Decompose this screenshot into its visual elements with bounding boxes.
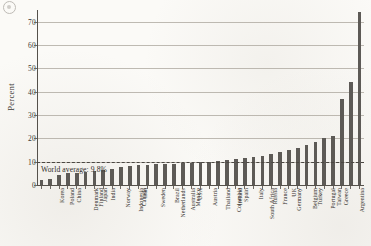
gridline bbox=[37, 45, 364, 46]
bar bbox=[216, 161, 220, 185]
x-tick-mark bbox=[315, 186, 316, 189]
x-tick-label: Iran bbox=[142, 188, 148, 198]
bar bbox=[234, 159, 238, 185]
x-tick-mark bbox=[209, 186, 210, 189]
bar bbox=[75, 173, 79, 185]
x-tick-mark bbox=[191, 186, 192, 189]
x-tick-label: France bbox=[281, 188, 287, 205]
y-tick-label: 20 bbox=[14, 134, 36, 143]
x-tick-mark bbox=[120, 186, 121, 189]
bar bbox=[331, 136, 335, 185]
bar bbox=[358, 12, 362, 185]
x-tick-mark bbox=[200, 186, 201, 189]
x-tick-label: Portugal bbox=[330, 188, 336, 209]
x-tick-mark bbox=[112, 186, 113, 189]
x-tick-mark bbox=[147, 186, 148, 189]
x-tick-mark bbox=[173, 186, 174, 189]
bar bbox=[137, 165, 141, 185]
x-tick-mark bbox=[288, 186, 289, 189]
x-tick-label: Sweden bbox=[160, 188, 166, 207]
x-tick-mark bbox=[306, 186, 307, 189]
bar bbox=[163, 164, 167, 185]
bar bbox=[207, 162, 211, 185]
bar bbox=[269, 154, 273, 185]
x-tick-label: Japan bbox=[102, 188, 108, 202]
bar bbox=[119, 167, 123, 185]
y-tick-label: 70 bbox=[14, 17, 36, 26]
bar bbox=[287, 150, 291, 185]
bar bbox=[110, 169, 114, 185]
x-tick-mark bbox=[76, 186, 77, 189]
x-tick-mark bbox=[324, 186, 325, 189]
x-tick-label: Netherlands bbox=[179, 188, 185, 218]
y-tick-label: 30 bbox=[14, 111, 36, 120]
x-tick-mark bbox=[359, 186, 360, 189]
y-axis-line bbox=[37, 10, 38, 186]
x-tick-mark bbox=[235, 186, 236, 189]
y-tick-label: 10 bbox=[14, 157, 36, 166]
bar bbox=[128, 166, 132, 185]
x-tick-mark bbox=[271, 186, 272, 189]
x-tick-label: Korea bbox=[59, 188, 65, 203]
x-tick-mark bbox=[227, 186, 228, 189]
x-tick-label: UK bbox=[291, 188, 297, 197]
gridline bbox=[37, 115, 364, 116]
bar bbox=[190, 163, 194, 185]
bar bbox=[48, 179, 52, 185]
x-tick-mark bbox=[129, 186, 130, 189]
x-tick-label: Austria bbox=[212, 188, 218, 206]
bar bbox=[146, 165, 150, 185]
bar bbox=[296, 148, 300, 185]
x-tick-label: Italy bbox=[258, 188, 264, 199]
bar bbox=[261, 156, 265, 185]
bar bbox=[225, 160, 229, 185]
bar bbox=[199, 162, 203, 185]
bar bbox=[181, 163, 185, 185]
x-tick-mark bbox=[94, 186, 95, 189]
y-axis-ticks: 010203040506070 bbox=[14, 0, 36, 246]
y-tick-label: 60 bbox=[14, 41, 36, 50]
x-tick-label: Brazil bbox=[174, 188, 180, 203]
bar-chart: Percent 010203040506070 World average: 9… bbox=[0, 0, 371, 246]
x-tick-mark bbox=[262, 186, 263, 189]
bar bbox=[314, 142, 318, 185]
x-tick-mark bbox=[280, 186, 281, 189]
x-tick-label: Norway bbox=[125, 188, 131, 208]
bar bbox=[305, 145, 309, 185]
gridline bbox=[37, 138, 364, 139]
x-tick-mark bbox=[218, 186, 219, 189]
bar bbox=[278, 152, 282, 185]
x-tick-label: Russia bbox=[272, 188, 278, 204]
y-tick-label: 50 bbox=[14, 64, 36, 73]
bar bbox=[84, 172, 88, 185]
x-tick-label: Poland bbox=[69, 188, 75, 205]
x-tick-label: Spain bbox=[243, 188, 249, 202]
x-tick-mark bbox=[297, 186, 298, 189]
x-tick-mark bbox=[182, 186, 183, 189]
x-tick-label: USA bbox=[197, 188, 203, 200]
x-tick-mark bbox=[244, 186, 245, 189]
x-tick-mark bbox=[59, 186, 60, 189]
x-tick-label: India bbox=[109, 188, 115, 201]
bar bbox=[40, 180, 44, 185]
bar bbox=[154, 164, 158, 185]
x-tick-mark bbox=[41, 186, 42, 189]
x-tick-mark bbox=[156, 186, 157, 189]
x-tick-mark bbox=[333, 186, 334, 189]
world-average-label: World average: 9.8% bbox=[41, 165, 107, 174]
y-tick-label: 40 bbox=[14, 87, 36, 96]
gridline bbox=[37, 68, 364, 69]
x-tick-label: Germany bbox=[296, 188, 302, 211]
x-tick-label: Thailand bbox=[224, 188, 230, 210]
world-average-line bbox=[37, 162, 364, 163]
x-tick-mark bbox=[341, 186, 342, 189]
x-tick-mark bbox=[67, 186, 68, 189]
x-tick-mark bbox=[165, 186, 166, 189]
x-tick-mark bbox=[85, 186, 86, 189]
x-tick-label: Turkey bbox=[317, 188, 323, 205]
bar bbox=[66, 173, 70, 185]
x-tick-label: Taiwan bbox=[335, 188, 341, 206]
x-tick-label: Argentina bbox=[360, 188, 366, 212]
x-tick-mark bbox=[50, 186, 51, 189]
bar bbox=[57, 175, 61, 185]
